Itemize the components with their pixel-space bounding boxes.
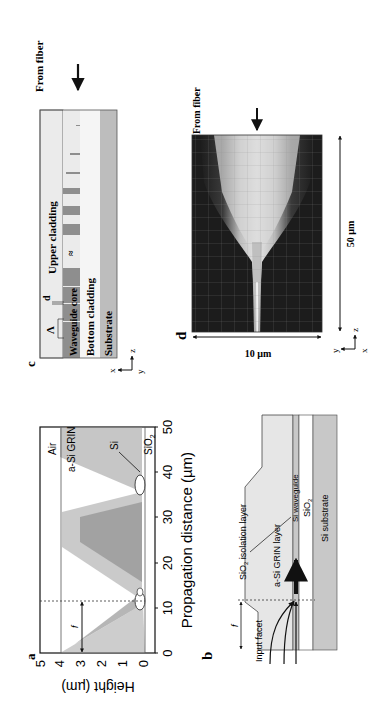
panel-d: d From fiber 50 µm 10 µm y z x [173,87,369,359]
svg-text:1: 1 [115,660,130,667]
gap-label: d [41,295,52,301]
length-label: 50 µm [345,220,356,247]
isolation-layer-label: SiO2 isolation layer [238,504,249,580]
panel-c-label: c [23,361,38,367]
from-fiber-label-d: From fiber [191,87,202,134]
field-map-grid [192,135,322,332]
svg-text:y: y [135,369,145,374]
figure-canvas: a f Air a-Si GRIN Si SiO2 [0,0,377,712]
svg-text:5: 5 [33,660,48,667]
svg-text:x: x [359,348,369,353]
panel-d-label: d [173,331,189,340]
y-axis: 0 1 2 3 4 5 Height (µm) [33,660,151,695]
svg-text:3: 3 [73,660,88,667]
panel-c: c Λ d ≈ Upper cladding Waveguide core Bo… [23,40,145,374]
axes-indicator-d: y z x [330,328,369,353]
si-substrate-label: Si substrate [320,494,330,542]
svg-text:40: 40 [160,465,175,479]
svg-text:20: 20 [160,556,175,570]
svg-text:z: z [350,328,360,332]
x-axis-label: Propagation distance (µm) [178,452,195,628]
si-waveguide-label: Si waveguide [291,474,300,522]
from-fiber-label-c: From fiber [33,40,45,92]
si-label: Si [109,441,120,450]
focal-label: f [70,624,80,628]
svg-text:10: 10 [160,601,175,615]
svg-text:x: x [107,368,117,373]
approx-symbol: ≈ [65,250,76,256]
svg-text:2: 2 [94,660,109,667]
svg-text:30: 30 [160,510,175,524]
svg-text:0: 0 [136,660,151,667]
panel-b: b f Input facet a-Si GRIN layer SiO2 iso… [199,415,337,664]
svg-text:50: 50 [160,420,175,434]
panel-a-label: a [23,653,38,660]
svg-text:z: z [127,349,137,353]
air-label: Air [47,442,58,455]
x-axis: 0 10 20 30 40 50 Propagation distance (µ… [155,420,195,657]
focal-label-b: f [230,623,240,627]
width-label: 10 µm [245,348,272,359]
input-facet-label: Input facet [254,619,264,662]
panel-a: a f Air a-Si GRIN Si SiO2 [23,420,195,695]
period-label: Λ [44,326,56,334]
svg-text:y: y [330,348,340,353]
figure-svg: a f Air a-Si GRIN Si SiO2 [0,0,377,712]
grin-layer-label: a-Si GRIN layer [272,524,282,587]
svg-text:4: 4 [52,660,67,667]
panel-b-label: b [199,652,215,660]
substrate-label: Substrate [102,311,114,356]
grin-label: a-Si GRIN [66,426,77,472]
sio2-layer [299,415,313,650]
bottom-cladding-label: Bottom cladding [84,278,96,356]
svg-text:0: 0 [160,649,175,656]
y-axis-label: Height (µm) [61,679,134,695]
upper-cladding-label: Upper cladding [46,201,58,274]
grin-layer [245,415,293,650]
waveguide-core-label: Waveguide core [68,288,79,356]
